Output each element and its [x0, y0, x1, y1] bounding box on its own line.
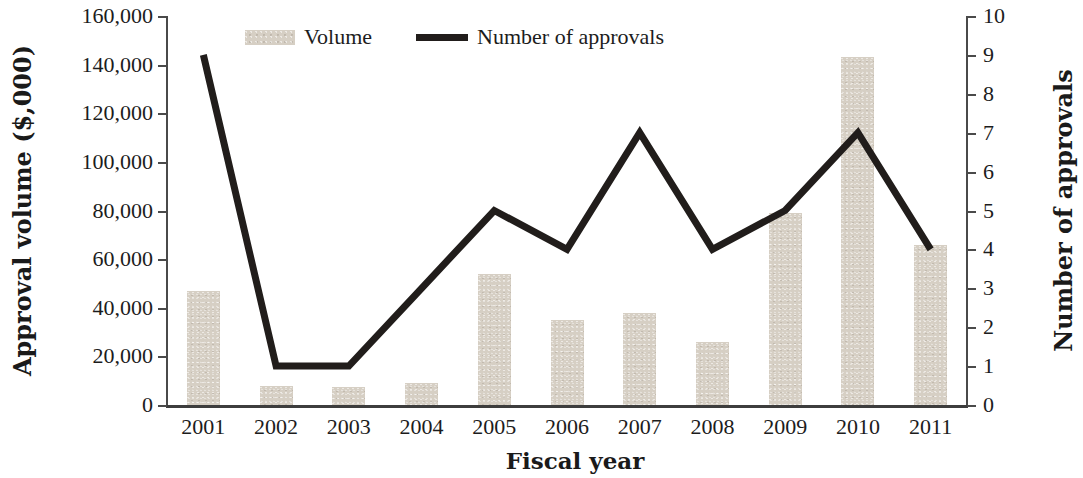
- y-axis-right-tick-label: 4: [983, 238, 994, 260]
- y-axis-left-tick-label: 140,000: [82, 54, 154, 76]
- x-axis-tick-label-2010: 2010: [836, 414, 880, 440]
- y-axis-right-tick: [967, 288, 976, 290]
- y-axis-left-tick: [158, 211, 167, 213]
- y-axis-right-tick-label: 0: [983, 394, 994, 416]
- legend-bar-swatch-icon: [245, 30, 295, 45]
- x-axis-tick-label-2009: 2009: [763, 414, 807, 440]
- y-axis-left-tick-label: 100,000: [82, 151, 154, 173]
- y-axis-left-tick: [158, 65, 167, 67]
- bar-2007: [623, 313, 656, 405]
- y-axis-left-tick-label: 20,000: [93, 345, 154, 367]
- y-axis-right-tick-label: 10: [983, 5, 1005, 27]
- y-axis-right-tick: [967, 327, 976, 329]
- y-axis-left-tick: [158, 113, 167, 115]
- legend-entry-volume: Volume: [245, 24, 372, 50]
- y-axis-right-tick: [967, 405, 976, 407]
- y-axis-left-tick-label: 40,000: [93, 297, 154, 319]
- bar-2010: [841, 57, 874, 405]
- y-axis-right-tick-label: 7: [983, 122, 994, 144]
- y-axis-left-tick: [158, 405, 167, 407]
- y-axis-right-tick: [967, 211, 976, 213]
- y-axis-right-title: Number of approvals: [1049, 21, 1078, 401]
- plot-area: 020,00040,00060,00080,000100,000120,0001…: [167, 16, 967, 407]
- y-axis-right-tick-label: 5: [983, 200, 994, 222]
- x-axis-tick-label-2004: 2004: [400, 414, 444, 440]
- y-axis-right-tick-label: 8: [983, 83, 994, 105]
- y-axis-left-tick: [158, 259, 167, 261]
- x-axis-tick-label-2001: 2001: [181, 414, 225, 440]
- x-axis-tick-label-2011: 2011: [909, 414, 952, 440]
- x-axis-tick-label-2007: 2007: [618, 414, 662, 440]
- y-axis-right-tick: [967, 94, 976, 96]
- legend-label-volume: Volume: [304, 24, 372, 50]
- y-axis-right-tick-label: 6: [983, 161, 994, 183]
- y-axis-right-tick: [967, 16, 976, 18]
- y-axis-right-tick: [967, 55, 976, 57]
- y-axis-left-tick-label: 120,000: [82, 102, 154, 124]
- y-axis-left-tick-label: 60,000: [93, 248, 154, 270]
- bar-2009: [769, 213, 802, 405]
- y-axis-right-tick: [967, 172, 976, 174]
- bar-2005: [478, 274, 511, 405]
- y-axis-left-tick-label: 160,000: [82, 5, 154, 27]
- y-axis-right-tick-label: 3: [983, 277, 994, 299]
- bar-2004: [405, 383, 438, 405]
- legend-label-number-of-approvals: Number of approvals: [477, 24, 664, 50]
- y-axis-left-title: Approval volume ($,000): [8, 21, 37, 401]
- y-axis-left-tick: [158, 16, 167, 18]
- x-axis-tick-label-2002: 2002: [254, 414, 298, 440]
- bar-2011: [914, 245, 947, 405]
- bar-2002: [260, 386, 293, 405]
- y-axis-left-tick-label: 0: [142, 394, 153, 416]
- y-axis-right-tick: [967, 366, 976, 368]
- bar-2003: [332, 387, 365, 405]
- legend-entry-number-of-approvals: Number of approvals: [416, 24, 664, 50]
- y-axis-right-tick-label: 2: [983, 316, 994, 338]
- chart-legend: Volume Number of approvals: [245, 24, 664, 50]
- y-axis-left-tick: [158, 308, 167, 310]
- x-axis-tick-label-2006: 2006: [545, 414, 589, 440]
- y-axis-right-tick-label: 1: [983, 355, 994, 377]
- y-axis-right-tick: [967, 249, 976, 251]
- bar-2008: [696, 342, 729, 405]
- x-axis-title: Fiscal year: [160, 447, 990, 474]
- legend-line-swatch-icon: [416, 34, 468, 41]
- bar-2001: [187, 291, 220, 405]
- x-axis-tick-label-2003: 2003: [327, 414, 371, 440]
- x-axis-tick-label-2008: 2008: [690, 414, 734, 440]
- y-axis-left-tick-label: 80,000: [93, 200, 154, 222]
- y-axis-left-tick: [158, 356, 167, 358]
- bar-2006: [551, 320, 584, 405]
- x-axis-tick-label-2005: 2005: [472, 414, 516, 440]
- y-axis-right-tick: [967, 133, 976, 135]
- chart-figure: Approval volume ($,000) Number of approv…: [0, 0, 1083, 478]
- x-axis-spine: [166, 405, 968, 408]
- y-axis-right-tick-label: 9: [983, 44, 994, 66]
- y-axis-left-tick: [158, 162, 167, 164]
